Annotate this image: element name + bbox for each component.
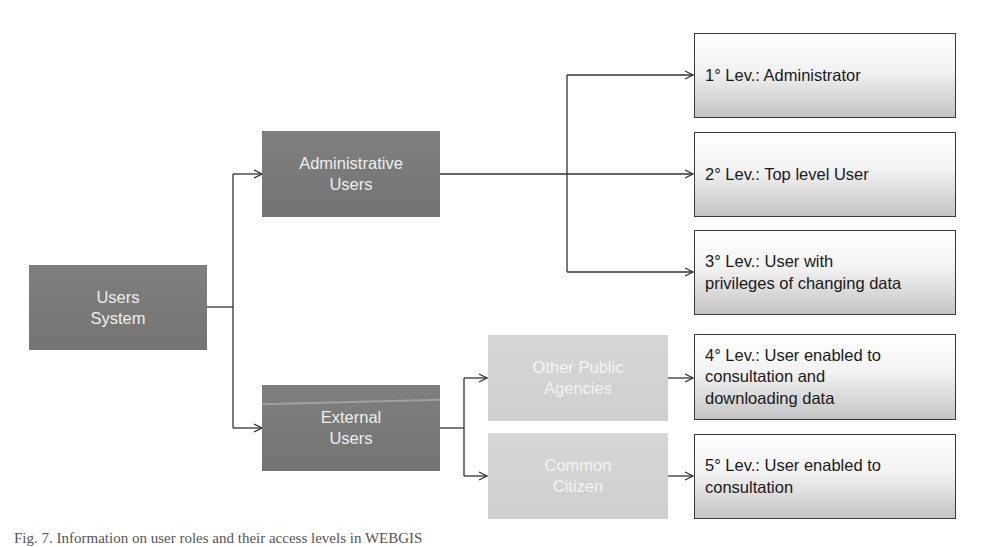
level-text-line: downloading data <box>705 388 881 409</box>
administrative-users-node: Administrative Users <box>262 131 440 217</box>
level-text-line: consultation <box>705 477 881 498</box>
level-text-line: consultation and <box>705 366 881 387</box>
node-label-line: Agencies <box>533 378 624 399</box>
node-label-line: Users <box>90 287 145 308</box>
level-text-line: 1° Lev.: Administrator <box>705 65 861 86</box>
external-users-node: External Users <box>262 385 440 471</box>
figure-caption: Fig. 7. Information on user roles and th… <box>14 530 422 547</box>
level-text-line: 4° Lev.: User enabled to <box>705 345 881 366</box>
node-label-line: Administrative <box>299 153 403 174</box>
level-2-node: 2° Lev.: Top level User <box>694 132 956 217</box>
users-system-node: Users System <box>29 265 207 350</box>
node-label-line: Citizen <box>545 476 612 497</box>
level-3-node: 3° Lev.: User with privileges of changin… <box>694 230 956 315</box>
level-text-line: privileges of changing data <box>705 273 901 294</box>
node-label-line: Users <box>299 174 403 195</box>
node-label-line: Common <box>545 455 612 476</box>
level-text-line: 3° Lev.: User with <box>705 251 901 272</box>
node-label-line: Users <box>321 428 382 449</box>
level-5-node: 5° Lev.: User enabled to consultation <box>694 434 956 519</box>
level-4-node: 4° Lev.: User enabled to consultation an… <box>694 334 956 420</box>
level-text-line: 2° Lev.: Top level User <box>705 164 869 185</box>
other-public-agencies-node: Other Public Agencies <box>488 335 668 421</box>
node-label-line: External <box>321 407 382 428</box>
level-text-line: 5° Lev.: User enabled to <box>705 455 881 476</box>
level-1-node: 1° Lev.: Administrator <box>694 33 956 118</box>
node-label-line: Other Public <box>533 357 624 378</box>
common-citizen-node: Common Citizen <box>488 433 668 519</box>
decorative-stripe <box>262 399 440 406</box>
node-label-line: System <box>90 308 145 329</box>
